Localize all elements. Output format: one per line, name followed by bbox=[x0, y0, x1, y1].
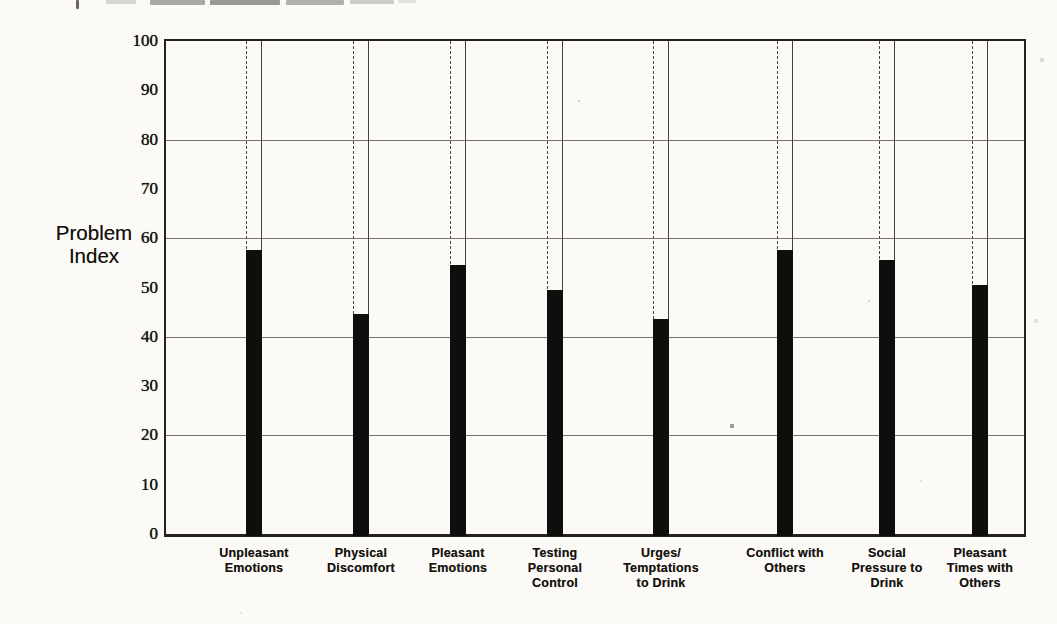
category-label: PleasantTimes withOthers bbox=[910, 546, 1050, 591]
cutoff-mark bbox=[350, 0, 394, 4]
category-label-line: Others bbox=[910, 576, 1050, 591]
category-label-line: Times with bbox=[910, 561, 1050, 576]
category-label-line: Pleasant bbox=[910, 546, 1050, 561]
ytick-label: 80 bbox=[0, 130, 158, 150]
bar bbox=[653, 319, 669, 536]
plot-area bbox=[164, 39, 1026, 537]
ytick-label: 10 bbox=[0, 475, 158, 495]
cutoff-text-fragment bbox=[0, 0, 1057, 10]
category-label-line: to Drink bbox=[591, 576, 731, 591]
ytick-label: 70 bbox=[0, 179, 158, 199]
bar-column bbox=[353, 41, 369, 534]
category-label-line: Urges/ bbox=[591, 546, 731, 561]
bar-column bbox=[777, 41, 793, 534]
bar-column bbox=[972, 41, 988, 534]
ytick-label: 0 bbox=[0, 524, 158, 544]
bar bbox=[450, 265, 466, 536]
ytick-label: 30 bbox=[0, 376, 158, 396]
cutoff-mark bbox=[150, 0, 205, 5]
bar-column bbox=[653, 41, 669, 534]
bar-column bbox=[450, 41, 466, 534]
bar bbox=[879, 260, 895, 536]
scan-noise bbox=[0, 0, 2, 2]
gridline-60 bbox=[166, 238, 1024, 239]
cutoff-mark bbox=[286, 0, 344, 5]
bar bbox=[246, 250, 262, 536]
bar bbox=[777, 250, 793, 536]
bar bbox=[972, 285, 988, 536]
ytick-label: 90 bbox=[0, 80, 158, 100]
ytick-label: 100 bbox=[0, 31, 158, 51]
bar-column bbox=[547, 41, 563, 534]
cutoff-mark bbox=[210, 0, 280, 5]
category-label-line: Temptations bbox=[591, 561, 731, 576]
bar-column bbox=[879, 41, 895, 534]
bar-column bbox=[246, 41, 262, 534]
gridline-80 bbox=[166, 140, 1024, 141]
gridline-40 bbox=[166, 337, 1024, 338]
ytick-label: 50 bbox=[0, 278, 158, 298]
ytick-label: 40 bbox=[0, 327, 158, 347]
bar bbox=[353, 314, 369, 536]
ytick-label: 20 bbox=[0, 425, 158, 445]
cutoff-mark bbox=[398, 0, 416, 3]
ytick-label: 60 bbox=[0, 228, 158, 248]
gridline-20 bbox=[166, 435, 1024, 436]
scanned-bar-chart-page: Problem Index 0102030405060708090100 Unp… bbox=[0, 0, 1057, 624]
cutoff-mark bbox=[106, 0, 136, 4]
bar bbox=[547, 290, 563, 537]
category-label: Urges/Temptationsto Drink bbox=[591, 546, 731, 591]
cutoff-mark bbox=[76, 0, 79, 9]
